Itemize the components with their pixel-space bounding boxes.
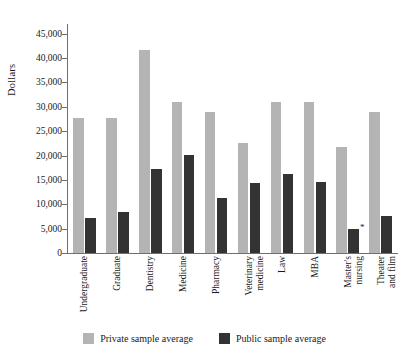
- bar-public: [184, 155, 195, 253]
- bar-private: [369, 112, 380, 253]
- bar-group: [238, 24, 261, 253]
- x-axis-label: Veterinarymedicine: [244, 256, 265, 326]
- legend-swatch-private: [83, 333, 94, 344]
- x-axis-label: MBA: [310, 256, 321, 326]
- bar-group: [106, 24, 129, 253]
- bar-public: [151, 169, 162, 253]
- y-axis-tick-label: 0: [6, 248, 62, 258]
- x-axis-label: Undergraduate: [79, 256, 90, 326]
- x-axis-label: Master'snursing: [343, 256, 364, 326]
- y-axis-tick-label: 5,000: [6, 224, 62, 234]
- bar-public: [381, 216, 392, 253]
- bar-chart: Dollars 05,00010,00015,00020,00025,00030…: [0, 0, 409, 362]
- x-axis-label: Law: [277, 256, 288, 326]
- y-axis-tick-label: 10,000: [6, 199, 62, 209]
- plot-area: 05,00010,00015,00020,00025,00030,00035,0…: [68, 24, 397, 253]
- bar-private: [73, 118, 84, 253]
- bar-group: [139, 24, 162, 253]
- legend-item-public: Public sample average: [219, 333, 326, 344]
- bar-public: [217, 198, 228, 253]
- legend-item-private: Private sample average: [83, 333, 193, 344]
- x-axis-label: Pharmacy: [211, 256, 222, 326]
- bar-private: [205, 112, 216, 253]
- bar-public: [316, 182, 327, 253]
- bar-public: [250, 183, 261, 253]
- x-axis-tick-labels: UndergraduateGraduateDentistryMedicinePh…: [68, 256, 397, 328]
- y-axis-tick: [62, 253, 68, 254]
- bar-private: [336, 147, 347, 253]
- y-axis-tick-label: 40,000: [6, 53, 62, 63]
- bar-public: [283, 174, 294, 253]
- y-axis-tick-label: 45,000: [6, 29, 62, 39]
- x-axis-label: Theaterand film: [376, 256, 397, 326]
- x-axis-label: Dentistry: [145, 256, 156, 326]
- x-axis-label: Medicine: [178, 256, 189, 326]
- y-axis-tick-label: 15,000: [6, 175, 62, 185]
- bar-private: [304, 102, 315, 253]
- y-axis-tick-label: 30,000: [6, 102, 62, 112]
- bar-group: [205, 24, 228, 253]
- bar-group: *: [336, 24, 359, 253]
- x-axis-label: Graduate: [112, 256, 123, 326]
- legend-label: Private sample average: [100, 333, 193, 344]
- bar-private: [271, 102, 282, 253]
- bar-group: [73, 24, 96, 253]
- bar-group: [369, 24, 392, 253]
- bar-public: [118, 212, 129, 253]
- y-axis-tick-label: 35,000: [6, 77, 62, 87]
- y-axis-tick-label: 20,000: [6, 151, 62, 161]
- y-axis-tick-label: 25,000: [6, 126, 62, 136]
- bar-private: [238, 143, 249, 253]
- bar-private: [106, 118, 117, 253]
- bar-group: [304, 24, 327, 253]
- bar-group: [271, 24, 294, 253]
- chart-legend: Private sample averagePublic sample aver…: [0, 333, 409, 344]
- legend-swatch-public: [219, 333, 230, 344]
- bar-private: [139, 50, 150, 253]
- bar-group: [172, 24, 195, 253]
- footnote-asterisk: *: [360, 223, 365, 232]
- bar-public: [348, 229, 359, 253]
- x-axis-line: [67, 253, 398, 254]
- legend-label: Public sample average: [236, 333, 326, 344]
- bar-public: [85, 218, 96, 253]
- bar-series-container: *: [68, 24, 397, 253]
- bar-private: [172, 102, 183, 253]
